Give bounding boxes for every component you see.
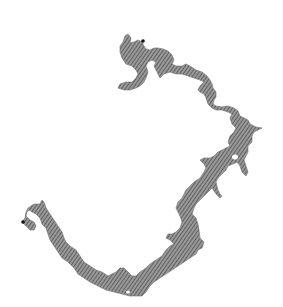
water-body	[22, 34, 262, 296]
island	[126, 290, 130, 293]
downstream-marker	[21, 220, 25, 224]
reservoir-map	[0, 0, 283, 307]
upstream-marker	[141, 39, 145, 43]
island	[156, 76, 159, 80]
markers	[21, 39, 145, 224]
reservoir-shape	[22, 34, 262, 296]
island	[232, 155, 238, 160]
